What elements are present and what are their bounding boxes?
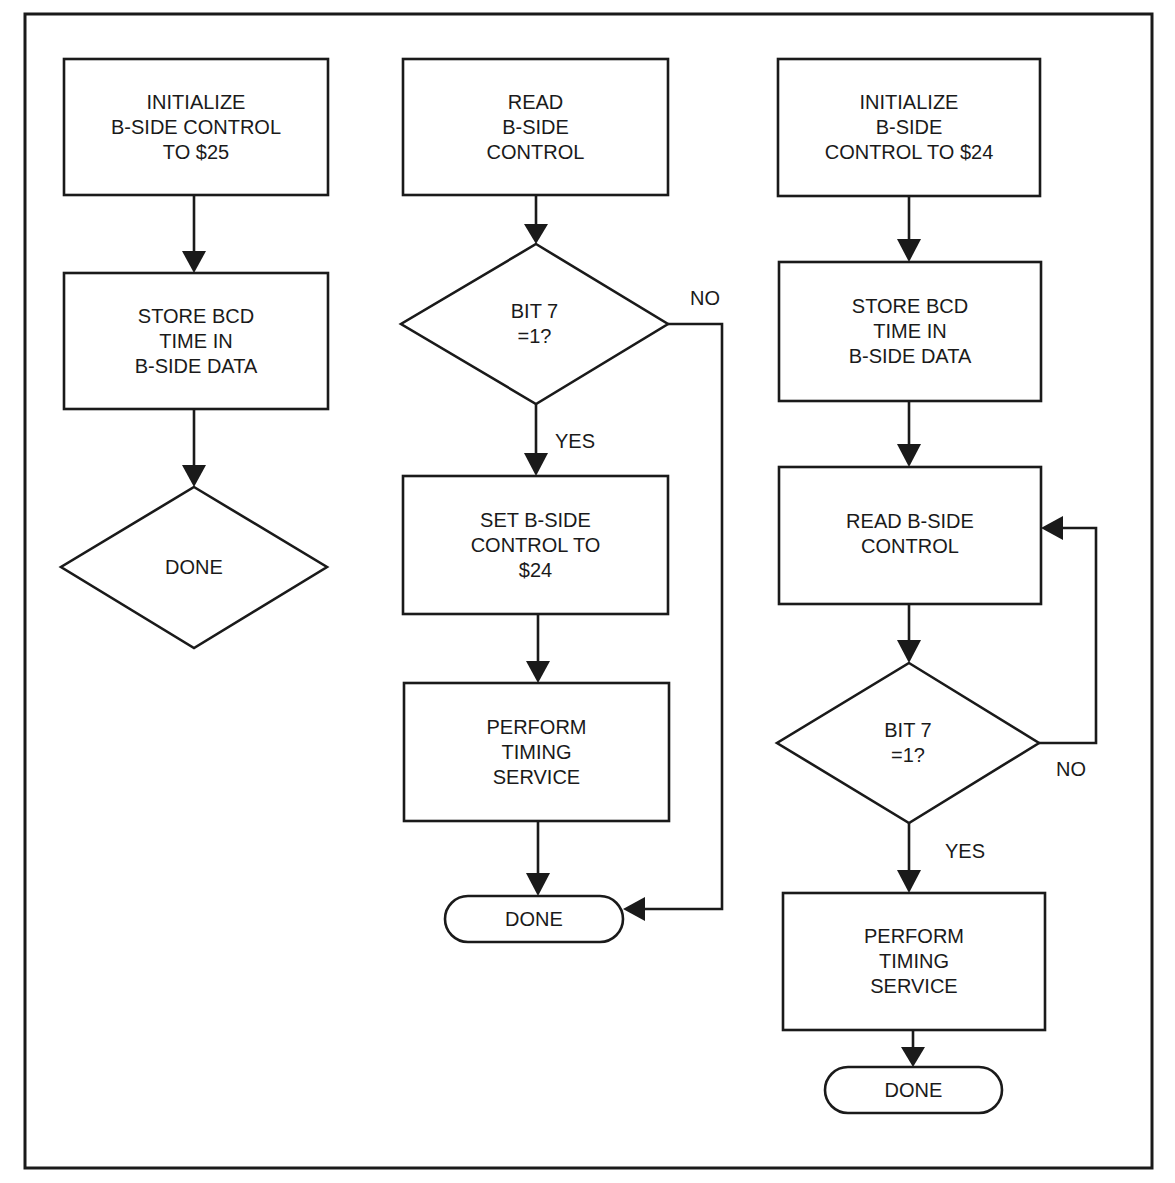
arrow-left-icon bbox=[623, 897, 645, 921]
left-store-label: STORE BCD TIME IN B-SIDE DATA bbox=[64, 273, 328, 409]
arrow-down-icon bbox=[182, 251, 206, 273]
right-read-label: READ B-SIDE CONTROL bbox=[779, 467, 1041, 604]
middle-bit7-label: BIT 7 =1? bbox=[401, 244, 668, 404]
arrow-down-icon bbox=[901, 1047, 925, 1067]
no-loop-connector-line bbox=[1039, 528, 1096, 743]
left-done-label: DONE bbox=[61, 487, 327, 648]
right-store-label: STORE BCD TIME IN B-SIDE DATA bbox=[779, 262, 1041, 401]
arrow-down-icon bbox=[897, 870, 921, 893]
arrow-down-icon bbox=[897, 239, 921, 262]
arrow-down-icon bbox=[526, 661, 550, 683]
arrow-down-icon bbox=[526, 873, 550, 896]
middle-read-label: READ B-SIDE CONTROL bbox=[403, 59, 668, 195]
right-perform-label: PERFORM TIMING SERVICE bbox=[783, 893, 1045, 1030]
arrow-down-icon bbox=[182, 465, 206, 487]
arrow-down-icon bbox=[524, 224, 548, 244]
arrow-down-icon bbox=[897, 444, 921, 467]
arrow-down-icon bbox=[897, 640, 921, 663]
arrow-left-icon bbox=[1041, 516, 1063, 540]
middle-set-label: SET B-SIDE CONTROL TO $24 bbox=[403, 476, 668, 614]
middle-done-label: DONE bbox=[445, 896, 623, 942]
right-done-label: DONE bbox=[825, 1067, 1002, 1113]
left-initialize-label: INITIALIZE B-SIDE CONTROL TO $25 bbox=[64, 59, 328, 195]
middle-yes-label: YES bbox=[555, 430, 595, 453]
right-no-label: NO bbox=[1056, 758, 1086, 781]
right-yes-label: YES bbox=[945, 840, 985, 863]
middle-perform-label: PERFORM TIMING SERVICE bbox=[404, 683, 669, 821]
right-bit7-label: BIT 7 =1? bbox=[777, 663, 1039, 823]
middle-no-label: NO bbox=[690, 287, 720, 310]
right-initialize-label: INITIALIZE B-SIDE CONTROL TO $24 bbox=[778, 59, 1040, 196]
arrow-down-icon bbox=[524, 453, 548, 476]
